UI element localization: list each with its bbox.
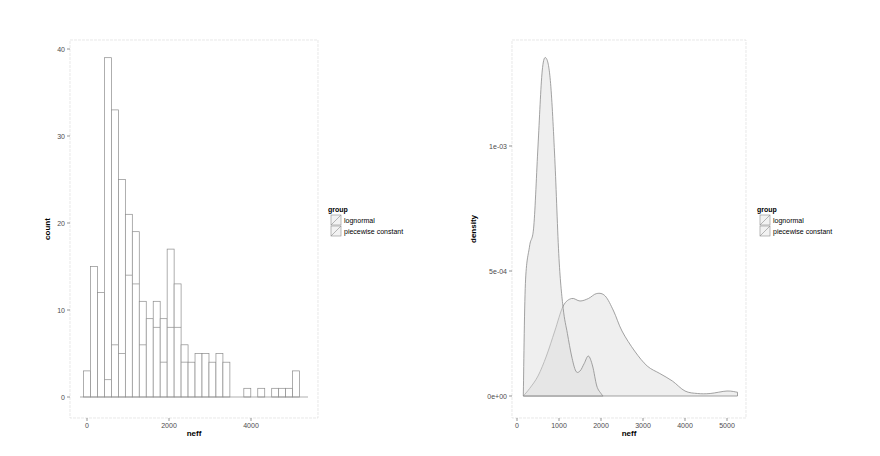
histogram-bar — [272, 388, 279, 397]
histogram-bar — [97, 293, 104, 397]
y-tick-label: 20 — [57, 220, 65, 227]
left-x-axis-title: neff — [187, 429, 202, 438]
left-y-axis: 010203040 — [57, 46, 70, 401]
y-tick-label: 5e-04 — [489, 268, 507, 275]
histogram-bar — [293, 371, 300, 397]
x-tick-label: 2000 — [593, 422, 609, 429]
histogram-bar — [84, 371, 91, 397]
histogram-bar — [111, 110, 118, 397]
density-chart: 0e+005e-041e-03 010002000300040005000 ne… — [469, 40, 746, 438]
right-x-axis: 010002000300040005000 — [515, 418, 735, 429]
left-legend-title: group — [328, 206, 348, 214]
histogram-bar — [202, 354, 209, 398]
left-y-axis-title: count — [43, 218, 52, 240]
x-tick-label: 4000 — [677, 422, 693, 429]
histogram-bar — [216, 354, 223, 398]
right-x-axis-title: neff — [622, 429, 637, 438]
left-legend-item-piecewise: piecewise constant — [331, 226, 403, 236]
histogram-bar — [132, 232, 139, 397]
right-legend: group lognormal piecewise constant — [757, 206, 832, 236]
left-legend: group lognormal piecewise constant — [328, 206, 403, 236]
histogram-bar — [139, 301, 146, 397]
right-y-axis-title: density — [469, 214, 478, 243]
left-legend-label-lognormal: lognormal — [344, 217, 375, 225]
left-x-axis: 020004000 — [85, 418, 259, 429]
x-tick-label: 4000 — [243, 422, 259, 429]
histogram-bar — [174, 284, 181, 397]
right-legend-label-piecewise: piecewise constant — [773, 228, 832, 236]
right-legend-title: group — [757, 206, 777, 214]
right-legend-item-piecewise: piecewise constant — [760, 226, 832, 236]
histogram-bar — [286, 388, 293, 397]
x-tick-label: 0 — [515, 422, 519, 429]
y-tick-label: 30 — [57, 133, 65, 140]
histogram-bar — [125, 214, 132, 397]
left-legend-item-lognormal: lognormal — [331, 215, 375, 225]
histogram-bar — [279, 388, 286, 397]
y-tick-label: 10 — [57, 307, 65, 314]
histogram-bar — [209, 362, 216, 397]
histogram-bar — [146, 319, 153, 397]
histogram-bar — [104, 58, 111, 397]
histogram-bar — [188, 362, 195, 397]
x-tick-label: 3000 — [635, 422, 651, 429]
histogram-bar — [181, 345, 188, 397]
histogram-bar — [167, 249, 174, 397]
histogram-bar — [258, 388, 265, 397]
y-tick-label: 40 — [57, 46, 65, 53]
x-tick-label: 2000 — [161, 422, 177, 429]
left-legend-label-piecewise: piecewise constant — [344, 228, 403, 236]
y-tick-label: 0e+00 — [487, 393, 507, 400]
histogram-bar — [160, 319, 167, 397]
right-y-axis: 0e+005e-041e-03 — [487, 143, 512, 400]
x-tick-label: 1000 — [551, 422, 567, 429]
histogram-bar — [223, 362, 230, 397]
histogram-bar — [153, 301, 160, 397]
x-tick-label: 0 — [85, 422, 89, 429]
histogram-chart: 010203040 020004000 neff count — [43, 40, 318, 438]
right-legend-item-lognormal: lognormal — [760, 215, 804, 225]
y-tick-label: 1e-03 — [489, 143, 507, 150]
histogram-bar — [90, 267, 97, 398]
histogram-bar — [118, 180, 125, 398]
right-legend-label-lognormal: lognormal — [773, 217, 804, 225]
y-tick-label: 0 — [61, 394, 65, 401]
histogram-bar — [244, 388, 251, 397]
histogram-bar — [195, 354, 202, 398]
x-tick-label: 5000 — [719, 422, 735, 429]
